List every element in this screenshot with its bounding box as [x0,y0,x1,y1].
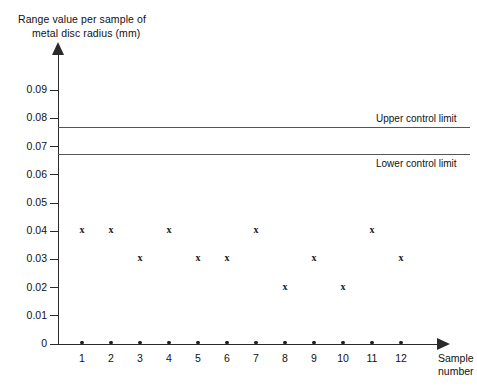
y-axis-tick [50,259,59,260]
y-axis-tick-label: 0.05 [3,196,47,208]
data-point: x [366,224,378,235]
x-axis-title: Sample number [438,352,474,378]
data-point: x [105,224,117,235]
y-axis-line [58,52,59,344]
chart-canvas: Range value per sample of metal disc rad… [0,0,477,389]
lower-control-limit-line [58,154,470,155]
y-axis-tick [50,231,59,232]
x-axis-arrow-icon [437,338,450,350]
y-axis-tick [50,315,59,316]
chart-title-line-1: Range value per sample of [18,12,146,26]
data-point: x [192,252,204,263]
data-point: x [279,281,291,292]
data-point: x [250,224,262,235]
x-axis-tick-label: 1 [70,352,94,364]
x-axis-tick-label: 2 [99,352,123,364]
y-axis-tick [50,118,59,119]
data-point: x [163,224,175,235]
upper-control-limit-label: Upper control limit [376,113,457,124]
chart-title: Range value per sample of metal disc rad… [18,12,146,40]
x-axis-tick-label: 8 [273,352,297,364]
data-point: x [395,252,407,263]
y-axis-tick-label: 0.06 [3,168,47,180]
x-axis-tick-label: 5 [186,352,210,364]
y-axis-tick-label: 0.07 [3,140,47,152]
data-point: x [221,252,233,263]
data-point: x [76,224,88,235]
y-axis-tick-label: 0.08 [3,111,47,123]
x-axis-tick-label: 7 [244,352,268,364]
y-axis-tick-label: 0.02 [3,281,47,293]
y-axis-tick [50,287,59,288]
upper-control-limit-line [58,127,470,128]
data-point: x [308,252,320,263]
x-axis-tick-label: 12 [389,352,413,364]
y-axis-tick-label: 0.03 [3,252,47,264]
x-axis-tick-label: 6 [215,352,239,364]
y-axis-tick [50,344,59,345]
x-axis-tick-label: 3 [128,352,152,364]
y-axis-tick [50,90,59,91]
data-point: x [337,281,349,292]
x-axis-line [58,344,440,345]
y-axis-tick [50,174,59,175]
chart-title-line-2: metal disc radius (mm) [18,26,146,40]
y-axis-tick [50,203,59,204]
y-axis-tick-label: 0.01 [3,309,47,321]
y-axis-tick-label: 0.09 [3,83,47,95]
x-axis-title-line-1: Sample [438,352,474,365]
x-axis-tick-label: 9 [302,352,326,364]
x-axis-tick-label: 4 [157,352,181,364]
y-axis-tick-label: 0.04 [3,224,47,236]
y-axis-tick [50,146,59,147]
x-axis-tick-label: 11 [360,352,384,364]
data-point: x [134,252,146,263]
x-axis-tick-label: 10 [331,352,355,364]
y-axis-tick-label: 0 [3,337,47,349]
lower-control-limit-label: Lower control limit [376,158,457,169]
x-axis-title-line-2: number [438,365,474,378]
